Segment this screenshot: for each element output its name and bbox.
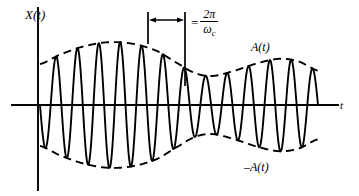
lower-envelope-label: –A(t) xyxy=(244,161,269,173)
waveform-plot xyxy=(0,0,359,196)
upper-envelope-label: A(t) xyxy=(251,41,270,53)
x-axis-label: t xyxy=(340,100,343,111)
y-axis-label: X(t) xyxy=(25,8,45,21)
omega-subscript: c xyxy=(212,29,216,38)
period-arrow-head-left xyxy=(149,18,156,23)
lower-envelope-curve xyxy=(40,134,318,168)
period-arrow-head-right xyxy=(177,18,184,23)
omega-symbol: ω xyxy=(203,22,211,36)
period-fraction: 2π ωc xyxy=(200,8,218,39)
equals-sign: = xyxy=(191,15,198,31)
upper-envelope-curve xyxy=(40,42,318,76)
am-signal-figure: X(t) t A(t) –A(t) = 2π ωc xyxy=(0,0,359,196)
fraction-denominator: ωc xyxy=(201,22,217,39)
period-equation: = 2π ωc xyxy=(191,8,218,39)
fraction-numerator: 2π xyxy=(201,8,217,21)
